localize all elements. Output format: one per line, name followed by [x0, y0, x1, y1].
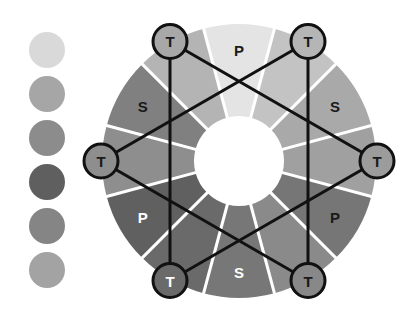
color-swatch-column	[29, 32, 65, 288]
color-swatch	[29, 76, 65, 112]
secondary-label: S	[234, 264, 244, 281]
tertiary-label: T	[372, 153, 381, 170]
color-wheel-diagram: PSPSPS TTTTTT	[0, 0, 418, 322]
tertiary-marker-bottom-right: T	[291, 264, 325, 298]
secondary-label: S	[330, 98, 340, 115]
primary-label: P	[234, 42, 244, 59]
tertiary-marker-top-left: T	[153, 24, 187, 58]
color-swatch	[29, 120, 65, 156]
tertiary-label: T	[165, 33, 174, 50]
tertiary-label: T	[303, 33, 312, 50]
tertiary-marker-left: T	[84, 144, 118, 178]
secondary-label: S	[138, 98, 148, 115]
primary-label: P	[330, 209, 340, 226]
color-swatch	[29, 208, 65, 244]
color-swatch	[29, 164, 65, 200]
color-swatch	[29, 252, 65, 288]
tertiary-label: T	[303, 273, 312, 290]
tertiary-marker-bottom-left: T	[153, 264, 187, 298]
tertiary-label: T	[165, 273, 174, 290]
color-swatch	[29, 32, 65, 68]
tertiary-marker-right: T	[360, 144, 394, 178]
tertiary-marker-top-right: T	[291, 24, 325, 58]
tertiary-label: T	[96, 153, 105, 170]
primary-label: P	[138, 209, 148, 226]
